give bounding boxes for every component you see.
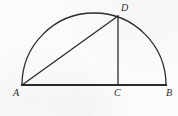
segment-AD-chord: [22, 16, 118, 85]
semicircle-arc: [22, 13, 166, 85]
figure-canvas: [0, 0, 178, 116]
geometry-figure: A B C D: [0, 0, 178, 116]
vertex-label-B: B: [166, 88, 172, 98]
vertex-label-C: C: [114, 88, 121, 98]
vertex-label-A: A: [13, 88, 19, 98]
vertex-label-D: D: [121, 3, 128, 13]
